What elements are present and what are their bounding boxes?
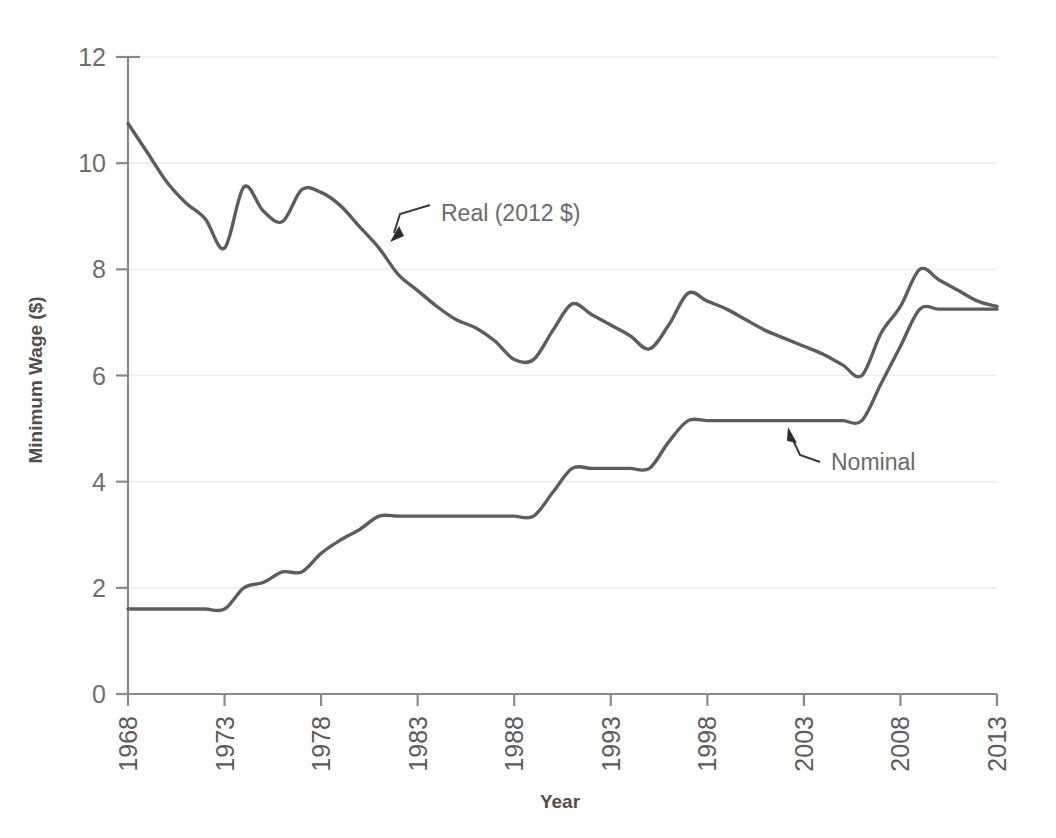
annotation-nominal: Nominal: [787, 427, 915, 475]
x-axis-title: Year: [540, 791, 581, 812]
y-axis-title: Minimum Wage ($): [25, 296, 46, 463]
real-series-label: Real (2012 $): [441, 200, 580, 226]
real-arrow-head: [390, 226, 404, 242]
annotation-real: Real (2012 $): [390, 200, 580, 242]
y-tick-label-8: 8: [92, 255, 106, 283]
y-tick-label-4: 4: [92, 468, 106, 496]
x-tick-label-1968: 1968: [114, 716, 142, 772]
nominal-arrow-head: [787, 427, 797, 443]
x-tick-label-2013: 2013: [983, 716, 1011, 772]
x-axis-ticks: 1968197319781983198819931998200320082013: [114, 694, 1011, 772]
y-tick-label-10: 10: [78, 149, 106, 177]
nominal-series-label: Nominal: [831, 449, 915, 475]
x-tick-label-2008: 2008: [886, 716, 914, 772]
minimum-wage-chart-figure: 024681012 196819731978198319881993199820…: [0, 0, 1056, 838]
x-tick-label-1978: 1978: [307, 716, 335, 772]
chart-canvas: 024681012 196819731978198319881993199820…: [0, 0, 1056, 838]
x-tick-label-1998: 1998: [693, 716, 721, 772]
y-tick-label-6: 6: [92, 362, 106, 390]
series-line-real: [128, 123, 997, 376]
x-tick-label-2003: 2003: [790, 716, 818, 772]
y-tick-label-12: 12: [78, 43, 106, 71]
x-tick-label-1988: 1988: [500, 716, 528, 772]
x-tick-label-1993: 1993: [597, 716, 625, 772]
data-series-group: [128, 123, 997, 610]
y-tick-label-2: 2: [92, 574, 106, 602]
y-tick-label-0: 0: [92, 680, 106, 708]
x-tick-label-1983: 1983: [404, 716, 432, 772]
gridlines: [128, 57, 997, 694]
y-axis-ticks: 024681012: [78, 43, 128, 708]
x-tick-label-1973: 1973: [211, 716, 239, 772]
